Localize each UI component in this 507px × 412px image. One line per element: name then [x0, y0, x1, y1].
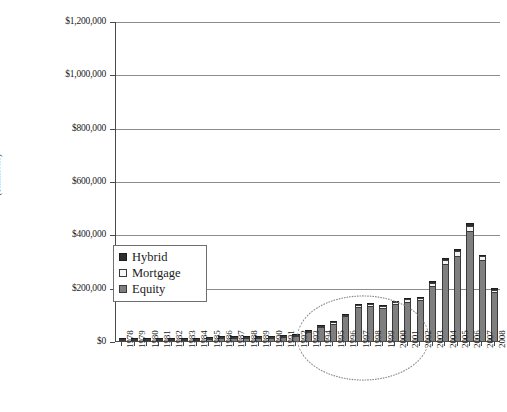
- bar-stack[interactable]: [466, 223, 473, 341]
- hybrid-swatch-icon: [119, 253, 127, 261]
- y-axis-tick-label: $0: [0, 336, 106, 346]
- y-axis-tick-label: $200,000: [0, 283, 106, 293]
- legend-label-hybrid: Hybrid: [132, 251, 167, 264]
- bar-stack[interactable]: [479, 255, 486, 341]
- x-axis-tick-label: 1991: [286, 330, 296, 348]
- x-axis-tick-label: 1994: [323, 330, 333, 348]
- legend-item-equity: Equity: [119, 281, 201, 297]
- legend-label-equity: Equity: [132, 283, 165, 296]
- x-axis-tick-label: 1995: [336, 330, 346, 348]
- legend-item-mortgage: Mortgage: [119, 265, 201, 281]
- gridline: [116, 22, 500, 23]
- x-axis-tick-label: 2008: [497, 330, 507, 348]
- x-axis-tick-label: 1989: [261, 330, 271, 348]
- y-axis-title: ($millions): [0, 154, 2, 196]
- bar-segment-equity: [479, 260, 486, 341]
- x-axis-tick-label: 1992: [299, 330, 309, 348]
- chart-legend: Hybrid Mortgage Equity: [113, 245, 207, 302]
- x-axis-tick-label: 1993: [311, 330, 321, 348]
- bar-stack[interactable]: [442, 258, 449, 341]
- x-axis-tick-label: 1979: [137, 330, 147, 348]
- legend-item-hybrid: Hybrid: [119, 249, 201, 265]
- y-axis-tick-label: $800,000: [0, 123, 106, 133]
- x-axis-tick-mark: [121, 342, 122, 346]
- x-axis-tick-label: 1987: [236, 330, 246, 348]
- mortgage-swatch-icon: [119, 269, 127, 277]
- gridline: [116, 182, 500, 183]
- y-axis-tick-label: $1,200,000: [0, 16, 106, 26]
- x-axis-tick-label: 1986: [224, 330, 234, 348]
- x-axis-tick-label: 2007: [485, 330, 495, 348]
- x-axis-tick-label: 1978: [125, 330, 135, 348]
- x-axis-tick-label: 1981: [162, 330, 172, 348]
- x-axis-tick-label: 1999: [386, 330, 396, 348]
- gridline: [116, 75, 500, 76]
- gridline: [116, 129, 500, 130]
- y-axis-tick-label: $600,000: [0, 176, 106, 186]
- bar-segment-equity: [454, 256, 461, 341]
- x-axis-tick-label: 2004: [448, 330, 458, 348]
- legend-label-mortgage: Mortgage: [132, 267, 181, 280]
- equity-swatch-icon: [119, 285, 127, 293]
- x-axis-tick-label: 1985: [212, 330, 222, 348]
- y-axis-tick-label: $400,000: [0, 229, 106, 239]
- x-axis-tick-label: 1982: [174, 330, 184, 348]
- x-axis-tick-label: 2003: [435, 330, 445, 348]
- x-axis-tick-label: 1983: [187, 330, 197, 348]
- x-axis-tick-label: 1998: [373, 330, 383, 348]
- x-axis-tick-label: 2000: [398, 330, 408, 348]
- y-axis-tick-mark: [110, 342, 115, 343]
- x-axis-tick-label: 1996: [348, 330, 358, 348]
- x-axis-tick-label: 2006: [472, 330, 482, 348]
- y-axis-tick-label: $1,000,000: [0, 69, 106, 79]
- bar-segment-equity: [466, 231, 473, 341]
- x-axis-tick-label: 1988: [249, 330, 259, 348]
- x-axis-tick-label: 2002: [423, 330, 433, 348]
- x-axis-tick-label: 2005: [460, 330, 470, 348]
- x-axis-tick-label: 1980: [150, 330, 160, 348]
- gridline: [116, 235, 500, 236]
- bar-stack[interactable]: [454, 249, 461, 341]
- x-axis-tick-label: 1990: [274, 330, 284, 348]
- x-axis-tick-label: 1984: [199, 330, 209, 348]
- x-axis-tick-label: 1997: [361, 330, 371, 348]
- x-axis-tick-label: 2001: [410, 330, 420, 348]
